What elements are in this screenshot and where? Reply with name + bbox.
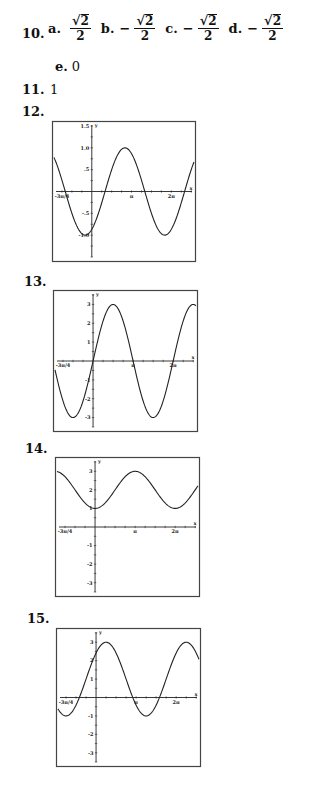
x-tick-label: 2π [168,193,175,199]
y-tick-label: 3 [90,639,94,645]
problem-13-number: 13. [24,274,47,289]
graph-13: -3π/4π2π321-1-2-3xy [53,290,198,432]
y-axis-label: y [97,458,102,465]
option-letter: e. [55,59,68,74]
sqrt-symbol: √2 [72,14,89,27]
option-sign: − [247,21,258,36]
problem-10-number: 10. [22,26,45,41]
option-a: a. √2 2 [48,14,91,42]
option-c: c. − √2 2 [165,14,218,42]
x-tick-label: -3π/4 [58,528,73,534]
option-letter: c. [165,21,177,36]
y-tick-label: -1 [88,713,94,719]
y-tick-label: -.5 [82,210,90,216]
problem-12-number: 12. [22,104,45,119]
x-tick-label: π [130,193,134,199]
y-axis-label: y [95,291,100,298]
option-letter: b. [101,21,115,36]
problem-11-answer: 1 [50,82,58,97]
function-curve [58,642,199,716]
problem-11-number: 11. [22,82,45,97]
y-tick-label: 3 [89,468,93,474]
x-tick-label: 2π [170,362,177,368]
x-tick-label: 2π [172,528,179,534]
y-tick-label: .5 [84,166,90,172]
y-axis-label: y [94,122,99,129]
y-tick-label: -1 [87,542,93,548]
x-axis-label: x [192,354,196,360]
problem-14-number: 14. [25,441,48,456]
fraction: √2 2 [134,14,155,42]
y-tick-label: -3 [88,750,94,756]
option-sign: − [119,21,130,36]
option-sign: − [183,21,194,36]
x-axis-label: x [190,185,194,191]
option-letter: d. [229,21,243,36]
y-tick-label: -3 [85,414,91,420]
y-tick-label: 1 [90,676,93,682]
option-d: d. − √2 2 [229,14,283,42]
y-tick-label: 2 [87,320,91,326]
sqrt-symbol: √2 [136,14,153,27]
sqrt-symbol: √2 [264,14,281,27]
x-axis-label: x [195,691,199,697]
y-tick-label: -2 [88,731,94,737]
y-tick-label: 1.5 [81,123,90,129]
y-tick-label: 1.0 [81,145,90,151]
y-tick-label: 3 [87,301,91,307]
fraction: √2 2 [70,14,91,42]
x-tick-label: π [133,528,137,534]
function-curve [57,471,198,508]
option-letter: a. [48,21,61,36]
graph-12: -3π/4π2π1.51.0.5-.5-1.0xy [52,121,196,262]
option-b: b. − √2 2 [101,14,155,42]
x-axis-label: x [194,520,198,526]
sqrt-symbol: √2 [200,14,217,27]
graph-15: -3π/4π2π321-1-2-3xy [56,628,201,767]
y-tick-label: 2 [89,487,93,493]
y-tick-label: 1 [87,339,90,345]
option-value: 0 [72,59,80,74]
x-tick-label: 2π [173,699,180,705]
x-tick-label: -3π/4 [56,362,71,368]
option-e: e. 0 [55,59,80,74]
y-axis-label: y [98,629,103,636]
y-tick-label: -3 [87,580,93,586]
y-tick-label: -2 [85,396,91,402]
problem-15-number: 15. [27,611,50,626]
problem-10-options: a. √2 2 b. − √2 2 c. − √2 2 d. − √2 2 [48,14,285,42]
x-tick-label: -3π/4 [59,699,74,705]
y-tick-label: -2 [87,561,93,567]
fraction: √2 2 [198,14,219,42]
fraction: √2 2 [262,14,283,42]
graph-14: -3π/4π2π321-1-2-3xy [55,457,200,597]
